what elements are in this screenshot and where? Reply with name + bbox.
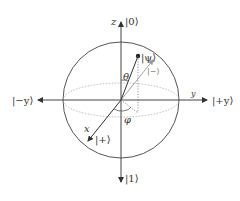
ket-psi-label: |ψ⟩ [141,52,156,64]
ket-one-label: |1⟩ [125,173,139,185]
ket-plus-y-label: |+y⟩ [212,95,233,107]
phi-label: φ [124,114,131,125]
x-axis-label: x [84,123,90,134]
theta-label: θ [123,71,129,82]
phi-arc [114,107,131,111]
bloch-sphere-diagram: z |0⟩ |ψ⟩ θ |−⟩ |−y⟩ y |+y⟩ φ x |+⟩ |1⟩ [0,0,240,201]
ket-minus-y-label: |−y⟩ [12,95,33,107]
ket-plus-label: |+⟩ [95,134,111,146]
ket-minus-label: |−⟩ [147,67,160,76]
y-axis-label: y [190,89,196,98]
z-axis-label: z [110,16,117,27]
ket-zero-label: |0⟩ [125,16,139,28]
